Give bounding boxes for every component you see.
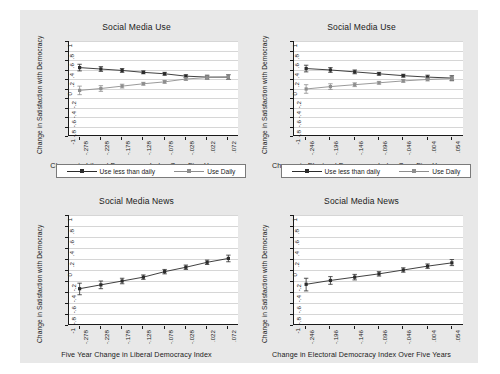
- legend-item-1[interactable]: Use less than daily: [67, 168, 155, 175]
- y-tick-label: .4: [293, 73, 300, 78]
- x-tick-label: -.028: [188, 330, 195, 344]
- x-tick-mark: [100, 137, 101, 140]
- y-tick-label: -1: [294, 139, 301, 145]
- y-tick-mark: [65, 237, 68, 238]
- data-point-marker: [206, 76, 209, 79]
- y-tick-label: .4: [68, 73, 75, 78]
- plot-area: [68, 215, 238, 325]
- y-tick-label: 0: [66, 273, 73, 276]
- y-tick-mark: [65, 270, 68, 271]
- chart-panel-bottom-right: Social Media News-1-.8-.6-.4-.20.2.4.6.8…: [249, 188, 474, 360]
- panel-title: Social Media Use: [249, 22, 474, 32]
- x-tick-label: -.046: [405, 141, 412, 155]
- y-tick-label: 0: [66, 92, 73, 95]
- legend-item-1[interactable]: Use less than daily: [292, 168, 380, 175]
- y-tick-mark: [65, 127, 68, 128]
- y-tick-mark: [290, 248, 293, 249]
- y-tick-label: -.2: [295, 284, 302, 291]
- legend-line-swatch: [292, 171, 322, 172]
- data-point-marker: [227, 257, 230, 260]
- y-tick-mark: [65, 259, 68, 260]
- y-tick-mark: [65, 51, 68, 52]
- x-tick-mark: [121, 137, 122, 140]
- series-1: [304, 260, 454, 291]
- x-tick-mark: [185, 137, 186, 140]
- y-tick-mark: [65, 281, 68, 282]
- series-layer: [69, 215, 238, 325]
- x-tick-label: -.228: [103, 141, 110, 155]
- data-point-marker: [163, 72, 166, 75]
- x-tick-label: -.028: [188, 141, 195, 155]
- x-axis-label: Change in Electoral Democracy Index Over…: [249, 350, 474, 359]
- x-tick-label: -.128: [145, 330, 152, 344]
- hollow-square-icon: [412, 169, 416, 173]
- data-point-marker: [99, 283, 102, 286]
- data-point-marker: [184, 266, 187, 269]
- data-point-marker: [121, 69, 124, 72]
- y-tick-label: .6: [293, 63, 300, 68]
- y-tick-mark: [290, 108, 293, 109]
- data-point-marker: [305, 87, 308, 90]
- x-tick-label: -.128: [145, 141, 152, 155]
- y-tick-mark: [290, 51, 293, 52]
- y-tick-label: 1: [291, 218, 298, 221]
- x-tick-mark: [227, 137, 228, 140]
- x-tick-label: -.096: [381, 141, 388, 155]
- data-point-marker: [329, 279, 332, 282]
- legend-label: Use less than daily: [100, 168, 155, 175]
- y-tick-mark: [290, 292, 293, 293]
- x-tick-label: -.078: [167, 330, 174, 344]
- y-tick-label: 0: [291, 273, 298, 276]
- y-tick-label: .6: [68, 63, 75, 68]
- y-axis-label: Change in Satisfaction with Democracy: [261, 225, 268, 343]
- legend-line-swatch: [399, 171, 429, 172]
- chart-panel-bottom-left: Social Media News-1-.8-.6-.4-.20.2.4.6.8…: [24, 188, 249, 360]
- y-tick-label: .2: [293, 262, 300, 267]
- x-tick-mark: [79, 326, 80, 329]
- y-tick-label: -.8: [295, 317, 302, 324]
- x-tick-label: -.196: [332, 141, 339, 155]
- data-point-marker: [402, 79, 405, 82]
- x-tick-label: .022: [209, 141, 216, 153]
- data-point-marker: [353, 70, 356, 73]
- x-tick-label: .072: [230, 141, 237, 153]
- x-tick-label: -.246: [308, 330, 315, 344]
- legend-item-2[interactable]: Use Daily: [174, 168, 235, 175]
- x-tick-label: -.046: [405, 330, 412, 344]
- y-axis-label: Change in Satisfaction with Democracy: [261, 36, 268, 154]
- y-tick-label: -.8: [70, 130, 77, 137]
- y-tick-label: -.2: [295, 101, 302, 108]
- x-tick-mark: [354, 137, 355, 140]
- y-tick-mark: [65, 325, 68, 326]
- data-point-marker: [402, 268, 405, 271]
- y-axis-label: Change in Satisfaction with Democracy: [36, 225, 43, 343]
- data-point-marker: [353, 83, 356, 86]
- y-tick-mark: [65, 248, 68, 249]
- x-tick-mark: [206, 326, 207, 329]
- series-layer: [294, 41, 463, 136]
- y-tick-mark: [290, 281, 293, 282]
- legend-item-2[interactable]: Use Daily: [399, 168, 460, 175]
- x-tick-mark: [378, 326, 379, 329]
- y-tick-mark: [65, 314, 68, 315]
- y-tick-label: -.6: [70, 306, 77, 313]
- y-tick-label: -.2: [70, 101, 77, 108]
- x-tick-label: .004: [430, 141, 437, 153]
- x-tick-label: -.278: [82, 330, 89, 344]
- y-tick-label: 0: [291, 92, 298, 95]
- y-tick-mark: [290, 89, 293, 90]
- data-point-marker: [305, 67, 308, 70]
- chart-panel-top-left: Social Media Use-1-.8-.6-.4-.20.2.4.6.81…: [24, 14, 249, 186]
- figure-canvas: Social Media Use-1-.8-.6-.4-.20.2.4.6.81…: [20, 10, 478, 363]
- y-tick-mark: [290, 98, 293, 99]
- data-point-marker: [184, 77, 187, 80]
- x-tick-mark: [427, 137, 428, 140]
- y-tick-label: .6: [68, 240, 75, 245]
- y-tick-label: .8: [293, 229, 300, 234]
- data-point-marker: [121, 279, 124, 282]
- y-tick-label: -.4: [70, 295, 77, 302]
- x-tick-label: .054: [454, 141, 461, 153]
- x-tick-label: -.178: [124, 141, 131, 155]
- x-tick-mark: [206, 137, 207, 140]
- x-tick-label: -.246: [308, 141, 315, 155]
